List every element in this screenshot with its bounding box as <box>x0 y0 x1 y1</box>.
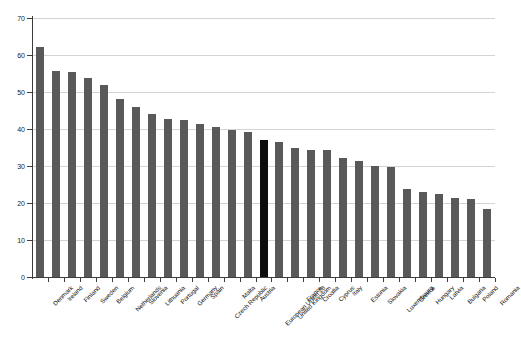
bar[interactable] <box>196 124 204 277</box>
bar[interactable] <box>275 142 283 277</box>
y-tick-mark <box>27 18 32 19</box>
y-tick-mark <box>27 277 32 278</box>
y-tick-mark <box>27 129 32 130</box>
bar[interactable] <box>260 140 268 277</box>
x-tick-mark <box>463 278 464 282</box>
y-tick-mark <box>27 203 32 204</box>
x-tick-label: Bulgaria <box>466 284 487 305</box>
x-tick-label: Cyprus <box>337 284 356 303</box>
x-tick-mark <box>415 278 416 282</box>
x-tick-mark <box>447 278 448 282</box>
bar[interactable] <box>451 198 459 277</box>
x-tick-label: European Union 28 <box>283 284 326 327</box>
bar[interactable] <box>36 47 44 278</box>
x-tick-label: Lithuania <box>163 284 186 307</box>
bar[interactable] <box>244 132 252 277</box>
x-tick-label: Italy <box>351 284 364 297</box>
bar[interactable] <box>339 158 347 277</box>
bar[interactable] <box>467 199 475 277</box>
bar[interactable] <box>403 189 411 277</box>
y-tick-mark <box>27 55 32 56</box>
x-tick-mark <box>192 278 193 282</box>
x-tick-label: Estonia <box>369 284 389 304</box>
x-tick-mark <box>399 278 400 282</box>
x-tick-mark <box>303 278 304 282</box>
x-tick-mark <box>256 278 257 282</box>
x-tick-label: Romania <box>498 284 520 306</box>
x-tick-label: Ireland <box>65 284 83 302</box>
x-tick-label: Slovakia <box>386 284 407 305</box>
bar[interactable] <box>387 167 395 277</box>
x-tick-mark <box>319 278 320 282</box>
y-tick-label: 20 <box>0 200 25 207</box>
x-tick-label: France <box>305 284 324 303</box>
x-tick-mark <box>176 278 177 282</box>
gridline-70 <box>32 18 495 19</box>
bar[interactable] <box>212 127 220 277</box>
bar[interactable] <box>180 120 188 277</box>
plot-area <box>32 18 495 277</box>
y-axis-line <box>32 16 33 279</box>
x-tick-mark <box>160 278 161 282</box>
x-tick-label: Luxembourg <box>405 284 434 313</box>
bar[interactable] <box>164 119 172 277</box>
x-tick-label: Slovenia <box>147 284 169 306</box>
bar[interactable] <box>148 114 156 277</box>
bar[interactable] <box>291 148 299 278</box>
y-tick-label: 70 <box>0 15 25 22</box>
x-tick-label: Poland <box>481 284 500 303</box>
x-tick-label: Malta <box>240 284 256 300</box>
bar[interactable] <box>307 150 315 277</box>
bar[interactable] <box>84 78 92 277</box>
x-tick-label: Czech Republic <box>232 284 268 320</box>
x-tick-label: Latvia <box>448 284 465 301</box>
bar[interactable] <box>435 194 443 277</box>
x-tick-mark <box>144 278 145 282</box>
y-tick-label: 40 <box>0 126 25 133</box>
x-tick-label: Denmark <box>51 284 74 307</box>
x-tick-mark <box>495 278 496 282</box>
x-tick-label: Austria <box>257 284 276 303</box>
x-tick-mark <box>351 278 352 282</box>
bar[interactable] <box>483 209 491 277</box>
x-tick-mark <box>431 278 432 282</box>
x-tick-label: Germany <box>195 284 218 307</box>
x-tick-mark <box>335 278 336 282</box>
x-tick-label: Spain <box>208 284 224 300</box>
bar[interactable] <box>52 71 60 277</box>
x-tick-mark <box>367 278 368 282</box>
bar[interactable] <box>100 85 108 277</box>
gridline-60 <box>32 55 495 56</box>
x-tick-label: Sweden <box>98 284 119 305</box>
x-tick-mark <box>208 278 209 282</box>
bar[interactable] <box>355 161 363 277</box>
y-tick-label: 10 <box>0 237 25 244</box>
x-tick-mark <box>80 278 81 282</box>
x-tick-mark <box>383 278 384 282</box>
x-tick-mark <box>287 278 288 282</box>
x-tick-label: Finland <box>82 284 101 303</box>
bar[interactable] <box>371 166 379 277</box>
bar[interactable] <box>68 72 76 277</box>
x-tick-mark <box>271 278 272 282</box>
x-tick-label: United Kingdom <box>296 284 332 320</box>
bar[interactable] <box>132 107 140 277</box>
y-tick-label: 30 <box>0 163 25 170</box>
x-axis-line <box>32 277 495 278</box>
y-tick-label: 50 <box>0 89 25 96</box>
y-tick-label: 0 <box>0 274 25 281</box>
x-tick-label: Belgium <box>114 284 135 305</box>
y-tick-mark <box>27 166 32 167</box>
x-tick-label: Hungary <box>434 284 455 305</box>
x-tick-mark <box>112 278 113 282</box>
bar[interactable] <box>228 130 236 277</box>
bar[interactable] <box>323 150 331 277</box>
x-tick-label: Croatia <box>321 284 340 303</box>
x-tick-mark <box>224 278 225 282</box>
x-tick-mark <box>128 278 129 282</box>
bar[interactable] <box>116 99 124 277</box>
bar[interactable] <box>419 192 427 277</box>
x-tick-mark <box>96 278 97 282</box>
x-tick-mark <box>479 278 480 282</box>
